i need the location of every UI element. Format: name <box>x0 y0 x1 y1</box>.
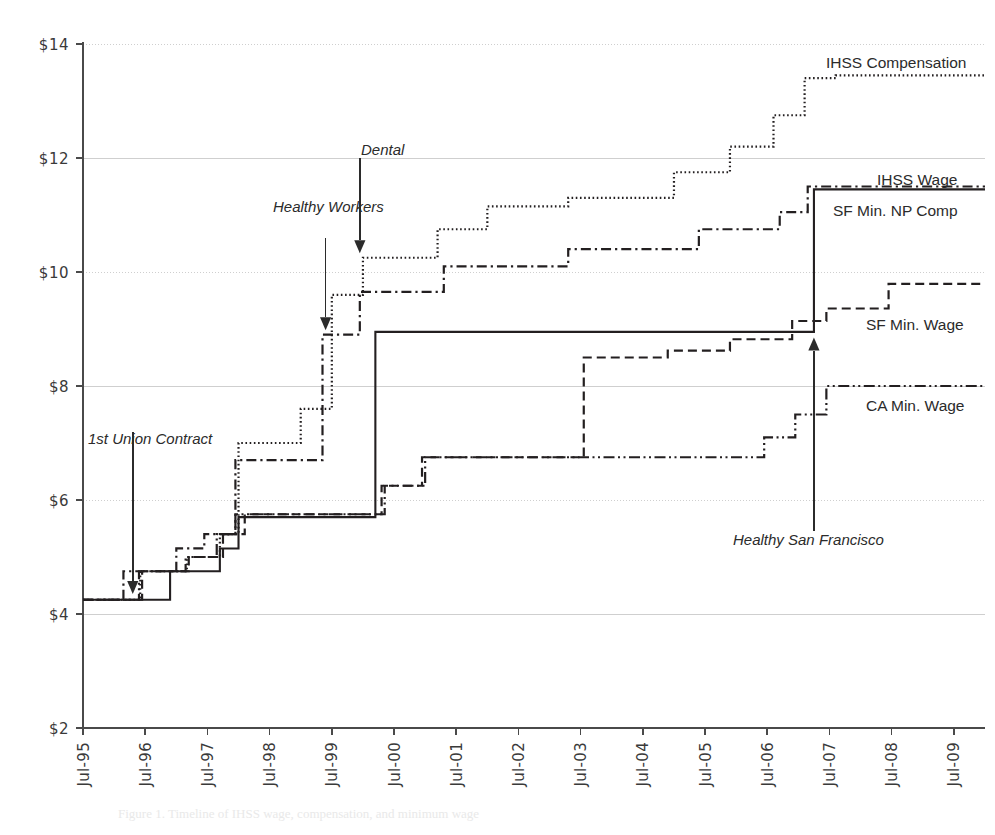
x-tick-label: Jul-06 <box>759 742 777 787</box>
y-tick-label: $10 <box>39 264 69 282</box>
x-tick-label: Jul-02 <box>510 742 528 787</box>
series-group <box>83 75 985 599</box>
y-tick-label: $8 <box>49 378 69 396</box>
y-tick-label: $12 <box>39 150 69 168</box>
x-tick-label: Jul-04 <box>634 742 652 787</box>
line-chart: $14$12$10$8$6$4$2Jul-95Jul-96Jul-97Jul-9… <box>0 0 995 835</box>
annotations: 1st Union ContractHealthy WorkersDentalH… <box>88 141 884 594</box>
x-tick-label: Jul-08 <box>883 742 901 787</box>
annotation-1st-union-contract-label: 1st Union Contract <box>88 430 213 447</box>
x-tick-label: Jul-03 <box>572 742 590 787</box>
figure-caption: Figure 1. Timeline of IHSS wage, compens… <box>118 806 479 822</box>
x-tick-label: Jul-95 <box>75 742 93 787</box>
series-labels: IHSS CompensationIHSS WageSF Min. NP Com… <box>826 54 966 414</box>
x-tick-label: Jul-01 <box>448 742 466 787</box>
x-tick-label: Jul-96 <box>137 742 155 787</box>
series-line-ihss-compensation <box>83 75 985 599</box>
axes <box>83 42 985 728</box>
annotation-healthy-workers-arrow-head <box>320 317 331 330</box>
y-tick-label: $4 <box>49 606 69 624</box>
series-label-sf-min-wage: SF Min. Wage <box>866 316 964 333</box>
annotation-1st-union-contract-arrow-head <box>127 581 138 594</box>
y-axis-ticks: $14$12$10$8$6$4$2 <box>39 36 83 738</box>
x-tick-label: Jul-99 <box>323 742 341 787</box>
annotation-healthy-san-francisco-arrow-head <box>808 338 819 351</box>
x-tick-label: Jul-00 <box>386 742 404 787</box>
annotation-healthy-workers-label: Healthy Workers <box>273 198 384 215</box>
x-tick-label: Jul-09 <box>945 742 963 787</box>
x-tick-label: Jul-98 <box>261 742 279 787</box>
annotation-dental-arrow-head <box>354 240 365 253</box>
gridlines <box>83 44 985 728</box>
x-tick-label: Jul-05 <box>697 742 715 787</box>
y-tick-label: $6 <box>49 492 69 510</box>
y-tick-label: $14 <box>39 36 69 54</box>
series-label-ca-min-wage: CA Min. Wage <box>866 397 965 414</box>
annotation-healthy-san-francisco-label: Healthy San Francisco <box>733 531 884 548</box>
series-label-ihss-wage: IHSS Wage <box>877 171 957 188</box>
series-line-ca-min-wage <box>83 386 985 600</box>
x-axis-ticks: Jul-95Jul-96Jul-97Jul-98Jul-99Jul-00Jul-… <box>75 728 964 787</box>
series-label-ihss-compensation: IHSS Compensation <box>826 54 966 71</box>
x-tick-label: Jul-97 <box>199 742 217 787</box>
annotation-dental-label: Dental <box>361 141 405 158</box>
series-label-sf-min-np-comp: SF Min. NP Comp <box>833 202 958 219</box>
y-tick-label: $2 <box>49 720 69 738</box>
chart-figure: $14$12$10$8$6$4$2Jul-95Jul-96Jul-97Jul-9… <box>0 0 995 835</box>
x-tick-label: Jul-07 <box>821 742 839 787</box>
